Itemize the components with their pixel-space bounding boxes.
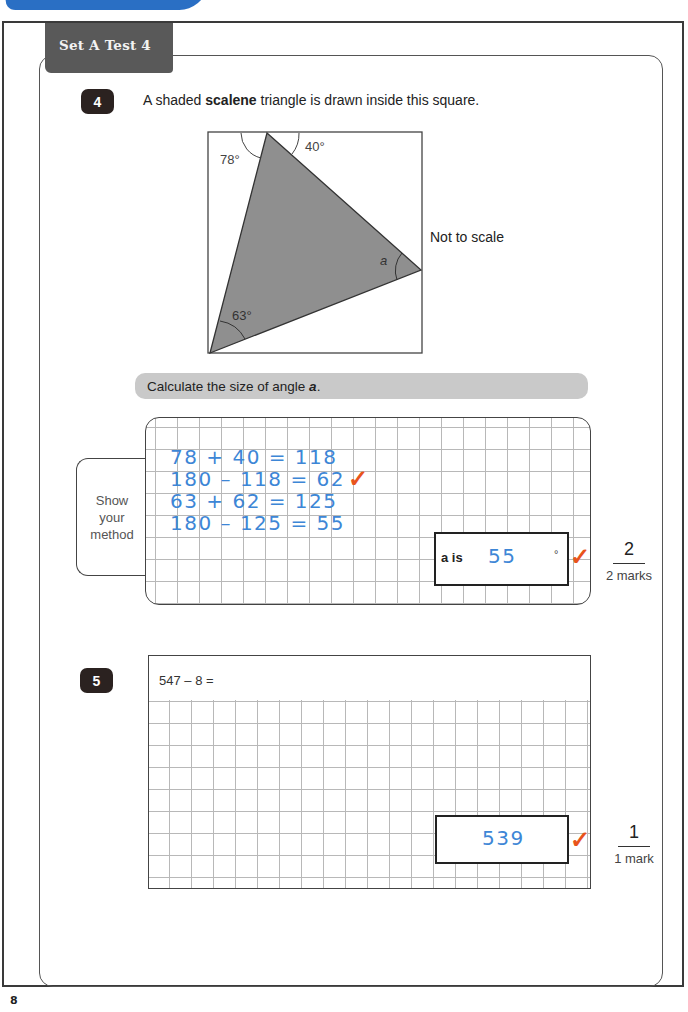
- marks-divider: [618, 846, 650, 847]
- test-header-tab: Set A Test 4: [45, 23, 173, 73]
- question-number: 4: [94, 94, 102, 110]
- show-method-tab: Show your method: [76, 458, 147, 576]
- instruction-variable: a: [309, 379, 317, 394]
- question-prompt: 547 – 8 =: [159, 673, 214, 688]
- test-title: Set A Test 4: [59, 37, 151, 53]
- answer-label: a is: [441, 550, 463, 565]
- instruction-text: Calculate the size of angle: [147, 379, 309, 394]
- instruction-bar: Calculate the size of angle a.: [135, 373, 588, 399]
- question-number-badge: 5: [80, 668, 113, 693]
- marks-divider: [613, 563, 645, 564]
- cover-decoration: [3, 0, 208, 10]
- page-number: 8: [10, 994, 18, 1007]
- marks-awarded: 1: [604, 821, 664, 843]
- method-label-line: method: [90, 526, 133, 543]
- tick-icon: ✓: [348, 467, 368, 491]
- marks-total: 2 marks: [599, 568, 659, 583]
- angle-label-40: 40°: [305, 139, 325, 154]
- question-prompt: A shaded scalene triangle is drawn insid…: [143, 92, 479, 108]
- method-label-line: Show: [90, 492, 133, 509]
- marks-indicator-q5: 1 1 mark: [604, 821, 664, 866]
- answer-value: 55: [488, 545, 516, 567]
- prompt-text: A shaded: [143, 92, 205, 108]
- degree-symbol: °: [554, 548, 558, 560]
- working-line: 63 + 62 = 125: [170, 490, 345, 512]
- not-to-scale-note: Not to scale: [430, 229, 504, 245]
- prompt-text-end: triangle is drawn inside this square.: [257, 92, 480, 108]
- instruction-period: .: [317, 379, 321, 394]
- handwritten-working: 78 + 40 = 118 180 – 118 = 62 63 + 62 = 1…: [170, 446, 345, 534]
- method-label-line: your: [90, 509, 133, 526]
- prompt-bold-text: scalene: [205, 92, 256, 108]
- working-line: 78 + 40 = 118: [170, 446, 345, 468]
- marks-total: 1 mark: [604, 851, 664, 866]
- answer-value: 539: [482, 827, 525, 849]
- marks-awarded: 2: [599, 538, 659, 560]
- question-number-badge: 4: [81, 89, 114, 114]
- angle-label-63: 63°: [232, 308, 252, 323]
- marks-indicator-q4: 2 2 marks: [599, 538, 659, 583]
- tick-icon: ✓: [570, 828, 590, 852]
- working-line: 180 – 125 = 55: [170, 512, 345, 534]
- question-prompt-box: 547 – 8 =: [148, 655, 591, 702]
- question-number: 5: [93, 673, 101, 689]
- angle-label-a: a: [380, 253, 387, 268]
- angle-label-78: 78°: [220, 152, 240, 167]
- tick-icon: ✓: [570, 545, 590, 569]
- working-line: 180 – 118 = 62: [170, 468, 345, 490]
